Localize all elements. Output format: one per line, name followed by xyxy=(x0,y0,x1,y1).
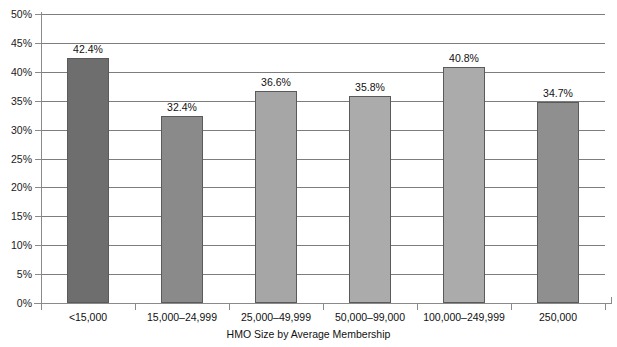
y-axis-tick-label: 5% xyxy=(0,269,32,280)
bar-value-label: 35.8% xyxy=(355,81,385,93)
y-axis-tick-label: 20% xyxy=(0,182,32,193)
bar xyxy=(349,96,391,303)
y-axis-tick-label: 35% xyxy=(0,95,32,106)
y-axis-tick-label: 45% xyxy=(0,38,32,49)
x-axis-tick xyxy=(605,303,606,310)
x-axis-tick xyxy=(135,303,136,310)
x-axis-category-label: 50,000–99,000 xyxy=(335,311,405,323)
bar xyxy=(537,102,579,303)
bar xyxy=(255,91,297,303)
x-axis-category-label: 100,000–249,999 xyxy=(423,311,505,323)
bar-value-label: 42.4% xyxy=(73,43,103,55)
y-axis-tick-label: 25% xyxy=(0,153,32,164)
y-axis-tick-label: 15% xyxy=(0,211,32,222)
y-axis-tick-label: 30% xyxy=(0,124,32,135)
x-axis-end-tick xyxy=(611,297,612,304)
x-axis-category-label: 25,000–49,999 xyxy=(241,311,311,323)
bar-chart: 0%5%10%15%20%25%30%35%40%45%50% 42.4%32.… xyxy=(0,0,617,347)
plot-area xyxy=(41,14,605,303)
bar-value-label: 32.4% xyxy=(167,101,197,113)
bar xyxy=(161,116,203,303)
bar-value-label: 36.6% xyxy=(261,76,291,88)
bar xyxy=(67,58,109,303)
x-axis-tick xyxy=(417,303,418,310)
x-axis-category-label: 15,000–24,999 xyxy=(147,311,217,323)
y-axis-tick-label: 10% xyxy=(0,240,32,251)
y-axis-tick-label: 50% xyxy=(0,9,32,20)
x-axis-category-label: <15,000 xyxy=(69,311,107,323)
bar-value-label: 34.7% xyxy=(543,87,573,99)
y-axis-tick-label: 0% xyxy=(0,298,32,309)
x-axis-category-label: 250,000 xyxy=(539,311,577,323)
x-axis-tick xyxy=(229,303,230,310)
y-axis-tick-label: 40% xyxy=(0,67,32,78)
x-axis-tick xyxy=(511,303,512,310)
x-axis-title: HMO Size by Average Membership xyxy=(0,328,617,340)
x-axis-tick xyxy=(41,303,42,310)
x-axis-tick xyxy=(323,303,324,310)
bar xyxy=(443,67,485,303)
bar-value-label: 40.8% xyxy=(449,52,479,64)
